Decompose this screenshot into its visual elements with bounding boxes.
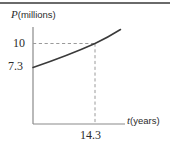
population-growth-figure: P(millions) t(years) 10 7.3 14.3 (0, 0, 170, 146)
x-axis-unit: (years) (130, 115, 160, 126)
x-axis-title: t(years) (127, 115, 160, 126)
population-curve (33, 30, 121, 68)
y-tick-label-7-3: 7.3 (8, 60, 23, 72)
x-tick-label-14-3: 14.3 (80, 129, 101, 141)
y-tick-label-10: 10 (13, 37, 25, 49)
y-axis-symbol: P (11, 8, 18, 20)
y-axis-title: P(millions) (11, 9, 56, 20)
y-axis-unit: (millions) (18, 9, 56, 20)
